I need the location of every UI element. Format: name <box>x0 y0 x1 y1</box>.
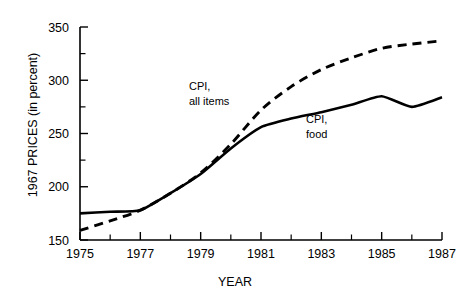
x-tick-label: 1979 <box>187 247 215 261</box>
y-axis-tick-labels: 150200250300350 <box>48 21 69 248</box>
y-tick-label: 250 <box>48 127 69 141</box>
x-tick-label: 1975 <box>66 247 94 261</box>
y-axis-ticks <box>80 27 88 240</box>
x-tick-label: 1983 <box>307 247 335 261</box>
annotation-cpi-food-line2: food <box>306 127 327 142</box>
annotation-cpi-all-items-line1: CPI, <box>189 79 229 94</box>
annotation-cpi-food: CPI, food <box>306 112 327 141</box>
x-tick-label: 1987 <box>428 247 456 261</box>
y-axis-title: 1967 PRICES (in percent) <box>26 10 40 240</box>
series-line-cpi-all-items <box>80 41 442 231</box>
annotation-cpi-food-line1: CPI, <box>306 112 327 127</box>
y-tick-label: 300 <box>48 74 69 88</box>
annotation-cpi-all-items: CPI, all items <box>189 79 229 108</box>
x-tick-label: 1985 <box>368 247 396 261</box>
x-tick-label: 1981 <box>247 247 275 261</box>
series-line-cpi-food <box>80 96 442 213</box>
y-tick-label: 200 <box>48 180 69 194</box>
line-chart-plot: 150200250300350 197519771979198119831985… <box>0 0 470 305</box>
x-axis-tick-labels: 1975197719791981198319851987 <box>66 247 456 261</box>
chart-container: 150200250300350 197519771979198119831985… <box>0 0 470 305</box>
annotation-cpi-all-items-line2: all items <box>189 94 229 109</box>
x-axis-title: YEAR <box>0 275 470 289</box>
y-tick-label: 350 <box>48 21 69 35</box>
x-axis-ticks <box>80 232 442 240</box>
y-tick-label: 150 <box>48 234 69 248</box>
x-tick-label: 1977 <box>126 247 154 261</box>
